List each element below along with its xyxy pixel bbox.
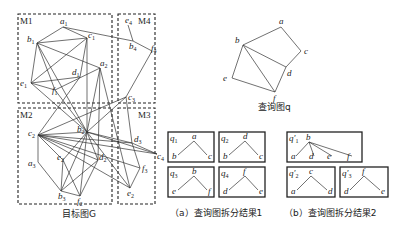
decomp1-leaf-2-1: c [259,151,263,161]
edge-d2-f2 [80,160,98,196]
edge-a1-c1 [63,27,87,38]
decomp1-edge [245,141,258,155]
decomp1-root-3: b [192,166,197,176]
edge-e1-d1 [31,77,80,83]
figure-canvas: M1 M2 M3 M4 a1b1c1d1a2e1f1e4b4f4c3c2b2e2… [0,0,400,229]
query-edge-a-c [281,27,301,51]
decomp1-label-q2: q2 [221,133,229,144]
node-label-c2: c2 [28,128,35,139]
query-node-label-a: a [279,16,284,26]
decomp2-leaf-2-0: a [291,186,296,196]
query-node-label-b: b [235,35,240,45]
edge-b2-c4 [87,132,157,154]
node-label-c3: c3 [128,92,135,103]
decomp2-leaf-1-1: d [309,151,314,161]
decomp1-root-2: d [243,131,248,141]
target-graph-caption: 目标图G [62,207,96,220]
query-node-label-d: d [287,68,292,78]
query-graph-edges [232,27,301,92]
edge-a2-e2b [100,68,130,188]
decomp2-edge [350,176,364,190]
edge-c2-f3 [38,135,140,168]
node-label-e4: e4 [125,15,132,26]
decomp1-leaf-4-1: e [259,186,263,196]
query-edge-b-f [243,45,275,92]
decomposition-1-caption: （a）查询图拆分结果1 [170,206,262,219]
query-graph-caption: 查询图q [258,100,291,113]
decomp1-leaf-3-1: f [208,186,212,196]
decomp1-label-q4: q4 [221,168,229,179]
decomp1-label-q1: q1 [170,133,178,144]
node-label-d3: d3 [134,134,142,145]
edge-c1-d1 [80,38,87,77]
edge-d2-b3 [61,160,98,191]
region-box-m4 [118,14,155,103]
node-label-c1: c1 [88,30,95,41]
decomp1-edge [178,141,194,155]
decomposition-2-caption: （b）查询图拆分结果2 [284,206,376,219]
edge-c3-d3 [126,97,132,143]
decomp2-leaf-3-0: d [344,186,349,196]
node-label-f1: f1 [52,85,58,96]
query-edge-b-e [232,45,243,78]
region-label-m3: M3 [138,110,151,120]
node-label-a2: a2 [100,58,108,69]
node-label-a1: a1 [60,16,68,27]
decomp1-label-q3: q3 [170,168,178,179]
query-edge-b-d [243,45,286,67]
node-label-f4: f4 [151,43,157,54]
edge-b1-a2 [37,43,100,68]
query-node-label-c: c [304,46,308,56]
edge-c2-d2 [38,135,98,160]
decomp2-leaf-1-0: a [291,151,296,161]
decomp1-edge [194,176,207,190]
decomp2-leaf-1-2: e [327,151,331,161]
node-label-d2: d2 [99,152,107,163]
decomp2-edge [311,176,327,190]
decomp2-edge [364,176,380,190]
decomposition-panels [168,132,388,197]
node-label-f3: f3 [142,163,148,174]
node-label-e2: e2 [57,152,64,163]
decomp1-edge [194,141,207,155]
edge-b1-e1 [31,43,37,83]
node-label-e2b: e2 [127,188,134,199]
decomp1-leaf-1-1: c [208,151,212,161]
edge-e2-f2 [63,160,80,196]
query-graph-node-labels: abcdef [223,16,308,103]
query-node-label-e: e [223,73,227,83]
decomp1-edge [229,176,245,190]
node-label-c4: c4 [157,151,164,162]
edge-b1-b2 [37,43,87,132]
edge-b2-e2b [87,132,130,188]
edge-b2-e2 [63,132,87,160]
node-label-e1: e1 [20,78,27,89]
decomp2-label-q1: q′1 [289,133,298,144]
edge-f4-c3 [126,51,152,97]
decomp1-edge [178,176,194,190]
decomp2-leaf-1-3: f [347,151,351,161]
decomp2-label-q2: q′2 [289,168,298,179]
region-label-m2: M2 [20,110,33,120]
node-label-b4: b4 [129,41,137,52]
decomp1-leaf-3-0: e [172,186,176,196]
edge-a3-b3 [38,162,61,191]
decomp1-edge [229,141,245,155]
query-edge-d-f [275,67,286,92]
decomp2-root-1: b [306,132,311,142]
decomp1-leaf-4-0: d [223,186,228,196]
node-label-b3: b3 [58,191,66,202]
decomp1-root-1: a [192,131,197,141]
node-label-b1: b1 [27,34,35,45]
decomp2-root-2: c [309,166,313,176]
edge-a1-b4 [63,27,133,41]
decomp2-edge [296,142,309,156]
query-edge-a-b [243,27,281,45]
region-label-m4: M4 [138,16,151,26]
node-label-a3: a3 [28,158,36,169]
node-label-f2: f2 [77,196,83,207]
edge-b1-f1 [37,43,55,90]
decomp2-leaf-3-1: e [381,186,385,196]
edge-c2-e2b [38,135,130,188]
decomp2-edge [297,176,311,190]
